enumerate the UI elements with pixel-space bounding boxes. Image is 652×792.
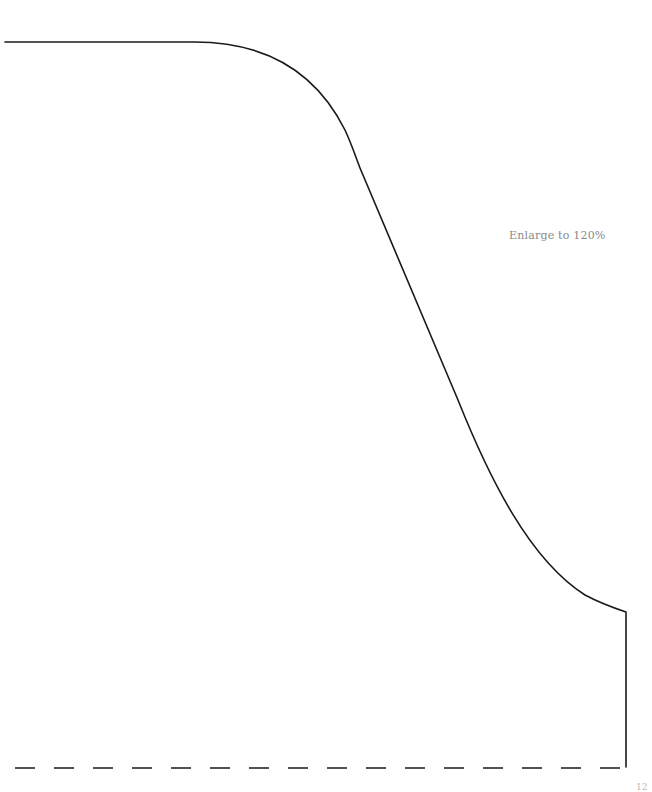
enlarge-instruction: Enlarge to 120% [509, 229, 605, 242]
page-number: 12 [636, 782, 647, 792]
pattern-outline [5, 42, 626, 767]
